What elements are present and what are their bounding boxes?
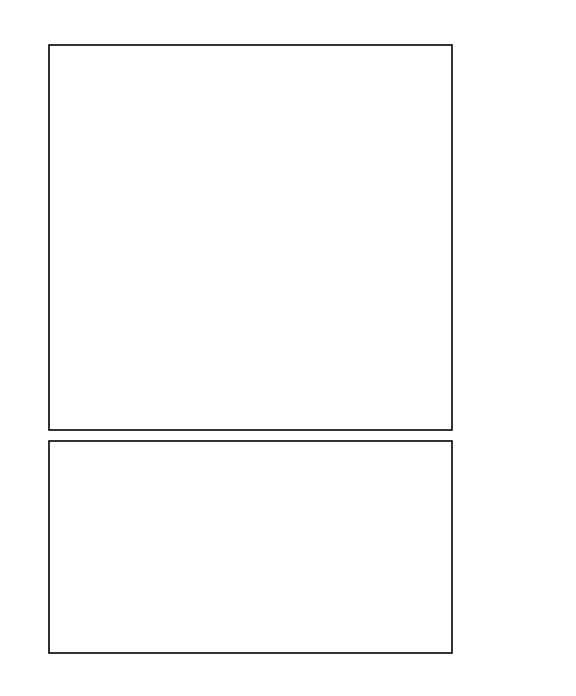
plot-canvas: [0, 0, 576, 696]
paleoclimate-figure: [0, 0, 576, 696]
bottom-panel-frame: [49, 441, 452, 653]
top-panel-frame: [49, 45, 452, 430]
